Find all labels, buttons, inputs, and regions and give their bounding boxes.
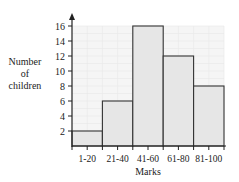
y-label-line: children [9, 80, 42, 91]
y-tick-label: 12 [55, 51, 65, 62]
y-axis-label: Numberofchildren [9, 56, 42, 91]
x-tick-label: 81-100 [195, 154, 222, 164]
y-tick-label: 14 [55, 36, 65, 47]
bar-81-100 [194, 86, 224, 146]
y-label-line: of [21, 68, 30, 79]
bar-21-40 [102, 101, 132, 146]
y-axis-arrow-icon [69, 13, 75, 20]
y-tick-label: 6 [60, 96, 65, 107]
x-tick-label: 61-80 [167, 154, 189, 164]
x-tick-label: 21-40 [107, 154, 129, 164]
x-axis-label: Marks [135, 166, 161, 177]
x-tick-label: 41-60 [137, 154, 159, 164]
y-tick-label: 2 [60, 126, 65, 137]
x-tick-label: 1-20 [78, 154, 96, 164]
y-label-line: Number [9, 56, 42, 67]
histogram-chart: 246810121416 1-2021-4041-6061-8081-100 N… [0, 0, 239, 182]
y-tick-label: 4 [60, 111, 65, 122]
y-tick-labels: 246810121416 [55, 21, 65, 137]
x-tick-labels: 1-2021-4041-6061-8081-100 [78, 154, 222, 164]
y-tick-label: 16 [55, 21, 65, 32]
bar-61-80 [163, 56, 193, 146]
y-tick-label: 10 [55, 66, 65, 77]
y-tick-label: 8 [60, 81, 65, 92]
bar-41-60 [133, 26, 163, 146]
bar-1-20 [72, 131, 102, 146]
